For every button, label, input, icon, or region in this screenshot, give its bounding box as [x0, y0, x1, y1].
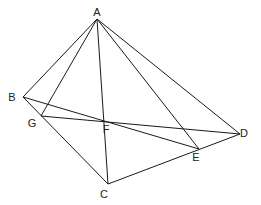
- segment-ab: [23, 19, 97, 97]
- point-label-f: F: [103, 123, 110, 135]
- geometry-diagram: A B G F D E C: [0, 0, 261, 205]
- point-label-b: B: [8, 91, 15, 103]
- point-label-e: E: [192, 151, 199, 163]
- segment-ad: [97, 19, 240, 134]
- point-label-a: A: [93, 6, 101, 18]
- segment-be: [23, 97, 199, 149]
- segment-ae: [97, 19, 199, 149]
- point-label-c: C: [100, 188, 108, 200]
- segments-group: [23, 19, 240, 184]
- segment-ag: [41, 19, 97, 116]
- point-label-d: D: [240, 127, 248, 139]
- segment-ac: [97, 19, 108, 184]
- point-label-g: G: [28, 117, 37, 129]
